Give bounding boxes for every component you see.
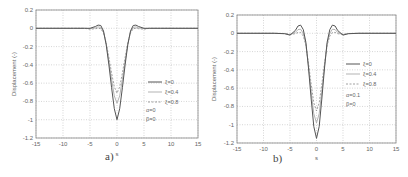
x-tick-label: 5 bbox=[341, 146, 345, 152]
legend-label: ξ=0 bbox=[165, 79, 174, 86]
chart-panel-a: -15-10-50510150.20-0.2-0.4-0.6-0.8-1-1.2… bbox=[0, 0, 204, 177]
legend-label: ξ=0.8 bbox=[363, 81, 376, 88]
x-tick-label: 10 bbox=[168, 141, 175, 147]
x-axis-label: s bbox=[315, 155, 318, 161]
panel-caption-b: b) bbox=[273, 152, 282, 164]
legend-label: ξ=0.4 bbox=[165, 89, 178, 96]
chart-panel-b: -15-10-50510150.20-0.2-0.4-0.6-0.8-1-1.2… bbox=[204, 0, 408, 177]
y-tick-label: -0.2 bbox=[224, 49, 235, 55]
y-tick-label: 0 bbox=[231, 30, 235, 36]
x-tick-label: 0 bbox=[115, 141, 119, 147]
annotation-alpha: α=0.1 bbox=[346, 92, 360, 98]
x-tick-label: -15 bbox=[32, 141, 41, 147]
x-tick-label: 5 bbox=[142, 141, 146, 147]
y-tick-label: -1.2 bbox=[224, 140, 235, 146]
x-tick-label: -15 bbox=[233, 146, 242, 152]
y-tick-label: 0.2 bbox=[226, 12, 235, 18]
y-tick-label: 0 bbox=[30, 25, 34, 31]
y-tick-label: -0.4 bbox=[23, 62, 34, 68]
plot-a: -15-10-50510150.20-0.2-0.4-0.6-0.8-1-1.2… bbox=[0, 0, 204, 177]
annotation-alpha: α=0 bbox=[146, 107, 155, 113]
x-tick-label: 15 bbox=[195, 141, 202, 147]
x-axis-label: s bbox=[116, 151, 119, 157]
y-tick-label: -0.2 bbox=[23, 44, 34, 50]
legend-label: ξ=0.8 bbox=[165, 99, 178, 106]
y-tick-label: -0.6 bbox=[224, 85, 235, 91]
x-tick-label: -10 bbox=[59, 141, 68, 147]
axes-frame bbox=[237, 15, 396, 143]
legend-label: ξ=0 bbox=[363, 61, 372, 68]
x-tick-label: 10 bbox=[366, 146, 373, 152]
x-tick-label: -5 bbox=[87, 141, 93, 147]
x-tick-label: 15 bbox=[393, 146, 400, 152]
legend: ξ=0ξ=0.4ξ=0.8 bbox=[346, 61, 376, 88]
y-tick-label: -1 bbox=[28, 117, 34, 123]
panel-caption-a: a) bbox=[105, 150, 114, 162]
y-tick-label: -1 bbox=[229, 122, 235, 128]
x-tick-label: -10 bbox=[259, 146, 268, 152]
y-tick-label: -0.4 bbox=[224, 67, 235, 73]
annotation-beta: β=0 bbox=[346, 101, 355, 107]
y-tick-label: 0.2 bbox=[25, 7, 34, 13]
x-tick-label: 0 bbox=[315, 146, 319, 152]
y-tick-label: -0.8 bbox=[23, 98, 34, 104]
y-tick-label: -0.6 bbox=[23, 80, 34, 86]
y-tick-label: -0.8 bbox=[224, 103, 235, 109]
plot-b: -15-10-50510150.20-0.2-0.4-0.6-0.8-1-1.2… bbox=[204, 0, 408, 177]
legend-label: ξ=0.4 bbox=[363, 71, 376, 78]
y-axis-label: Displacement (-) bbox=[11, 52, 17, 96]
annotation-beta: β=0 bbox=[146, 116, 155, 122]
y-axis-label: Displacement (-) bbox=[211, 57, 217, 101]
y-tick-label: -1.2 bbox=[23, 135, 34, 141]
x-tick-label: -5 bbox=[287, 146, 293, 152]
grid bbox=[237, 15, 396, 143]
